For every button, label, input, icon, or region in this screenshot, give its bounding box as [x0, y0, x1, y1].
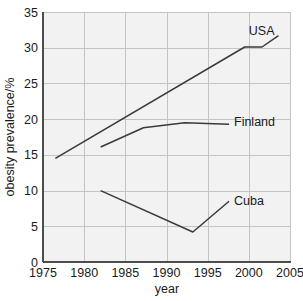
x-axis-title: year [155, 282, 179, 296]
obesity-prevalence-line-chart: 1975198019851990199520002005 05101520253… [0, 0, 303, 301]
x-tick-label-2000: 2000 [235, 266, 263, 280]
x-tick-label-1990: 1990 [153, 266, 181, 280]
y-axis-title: obesity prevalence/% [3, 78, 17, 197]
plot-area-background [43, 12, 290, 262]
y-tick-label-30: 30 [24, 41, 38, 55]
y-tick-label-35: 35 [24, 6, 38, 20]
y-axis-tick-labels: 05101520253035 [24, 6, 38, 270]
series-label-finland: Finland [234, 115, 275, 129]
chart-canvas: 1975198019851990199520002005 05101520253… [0, 0, 303, 301]
x-axis-tick-labels: 1975198019851990199520002005 [29, 266, 303, 280]
x-tick-label-1980: 1980 [70, 266, 98, 280]
y-tick-label-15: 15 [24, 148, 38, 162]
x-tick-label-1985: 1985 [111, 266, 139, 280]
y-tick-label-5: 5 [31, 220, 38, 234]
y-tick-label-10: 10 [24, 184, 38, 198]
series-label-usa: USA [249, 24, 275, 38]
x-tick-label-1995: 1995 [194, 266, 222, 280]
x-tick-label-2005: 2005 [276, 266, 303, 280]
series-label-cuba: Cuba [234, 194, 264, 208]
y-tick-label-20: 20 [24, 113, 38, 127]
y-tick-label-0: 0 [31, 256, 38, 270]
y-tick-label-25: 25 [24, 77, 38, 91]
